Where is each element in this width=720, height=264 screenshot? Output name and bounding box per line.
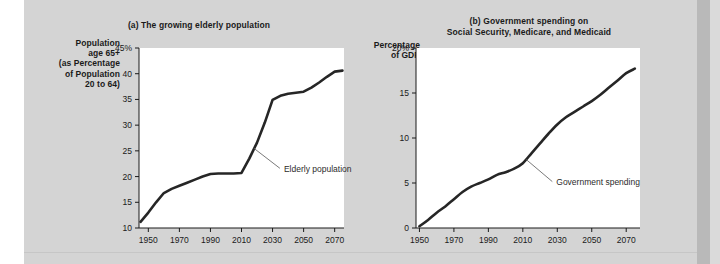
annotation-label: Elderly population xyxy=(284,164,352,174)
svg-text:20: 20 xyxy=(123,172,133,182)
svg-text:25: 25 xyxy=(123,146,133,156)
page-outer-edge xyxy=(710,0,720,264)
svg-text:1950: 1950 xyxy=(139,235,158,245)
annotation-label: Government spending xyxy=(556,177,640,187)
svg-text:1990: 1990 xyxy=(479,235,498,245)
svg-text:2050: 2050 xyxy=(582,235,601,245)
svg-text:40: 40 xyxy=(123,69,133,79)
svg-text:2070: 2070 xyxy=(617,235,636,245)
svg-text:2010: 2010 xyxy=(232,235,251,245)
svg-text:1990: 1990 xyxy=(201,235,220,245)
svg-text:2070: 2070 xyxy=(325,235,344,245)
svg-text:2030: 2030 xyxy=(263,235,282,245)
svg-text:10: 10 xyxy=(123,223,133,233)
svg-text:20%: 20% xyxy=(392,43,409,53)
svg-text:5: 5 xyxy=(404,178,409,188)
svg-text:1970: 1970 xyxy=(170,235,189,245)
svg-text:1970: 1970 xyxy=(444,235,463,245)
chart-panel-b: (b) Government spending on Social Securi… xyxy=(354,0,697,264)
textbook-figure: (a) The growing elderly population Popul… xyxy=(0,0,720,264)
page-left-margin xyxy=(0,0,24,264)
svg-text:2010: 2010 xyxy=(513,235,532,245)
svg-text:35: 35 xyxy=(123,94,133,104)
svg-text:30: 30 xyxy=(123,120,133,130)
svg-text:10: 10 xyxy=(400,133,410,143)
page-gutter-shadow xyxy=(697,0,710,264)
svg-text:15: 15 xyxy=(123,197,133,207)
panel-b-plot: 05101520%1950197019902010203020502070Gov… xyxy=(354,0,697,264)
svg-text:45%: 45% xyxy=(115,43,132,53)
svg-text:0: 0 xyxy=(404,223,409,233)
svg-text:2050: 2050 xyxy=(294,235,313,245)
panel-a-plot: 1015202530354045%19501970199020102030205… xyxy=(24,0,354,264)
svg-text:15: 15 xyxy=(400,88,410,98)
chart-panel-a: (a) The growing elderly population Popul… xyxy=(24,0,354,264)
svg-text:1950: 1950 xyxy=(410,235,429,245)
svg-text:2030: 2030 xyxy=(548,235,567,245)
